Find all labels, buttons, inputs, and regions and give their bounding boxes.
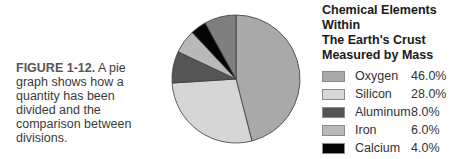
- legend-swatch: [322, 107, 345, 118]
- legend-swatch: [322, 125, 345, 136]
- chart-legend: Chemical Elements Within The Earth's Cru…: [322, 3, 469, 159]
- legend-item-oxygen: Oxygen 46.0%: [322, 67, 469, 85]
- legend-value: 28.0%: [411, 87, 446, 101]
- legend-title-line: Chemical Elements Within: [322, 3, 469, 33]
- legend-value: 46.0%: [411, 69, 446, 83]
- legend-swatch: [322, 89, 345, 100]
- legend-label: Oxygen: [355, 69, 411, 83]
- legend-item-aluminum: Aluminum 8.0%: [322, 103, 469, 121]
- legend-label: Iron: [355, 123, 411, 137]
- legend-title: Chemical Elements Within The Earth's Cru…: [322, 3, 469, 63]
- legend-item-iron: Iron 6.0%: [322, 121, 469, 139]
- legend-label: Aluminum: [355, 105, 411, 119]
- legend-item-others: Others 8.0%: [322, 157, 469, 159]
- legend-swatch: [322, 143, 345, 154]
- legend-item-silicon: Silicon 28.0%: [322, 85, 469, 103]
- pie-slices: [172, 15, 300, 143]
- legend-value: 6.0%: [411, 123, 440, 137]
- legend-item-calcium: Calcium 4.0%: [322, 139, 469, 157]
- legend-value: 8.0%: [411, 105, 440, 119]
- legend-value: 4.0%: [411, 141, 440, 155]
- legend-swatch: [322, 71, 345, 82]
- legend-label: Calcium: [355, 141, 411, 155]
- legend-title-line: Measured by Mass: [322, 48, 469, 63]
- legend-title-line: The Earth's Crust: [322, 33, 469, 48]
- legend-label: Silicon: [355, 87, 411, 101]
